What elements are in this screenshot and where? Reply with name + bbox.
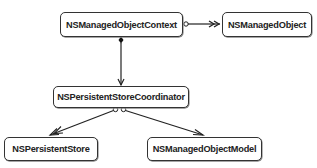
node-managed-object-context: NSManagedObjectContext	[60, 12, 183, 37]
open-circle-icon	[184, 22, 188, 26]
node-managed-object-model: NSManagedObjectModel	[147, 137, 262, 161]
node-persistent-store: NSPersistentStore	[4, 137, 98, 161]
filled-diamond-icon	[119, 37, 124, 44]
edge-context-object	[184, 21, 220, 27]
edge-coordinator-store	[50, 107, 118, 135]
edge-context-coordinator	[118, 37, 124, 86]
edge-coordinator-model	[121, 107, 203, 135]
node-managed-object: NSManagedObject	[222, 12, 312, 37]
node-persistent-store-coordinator: NSPersistentStoreCoordinator	[53, 86, 189, 108]
